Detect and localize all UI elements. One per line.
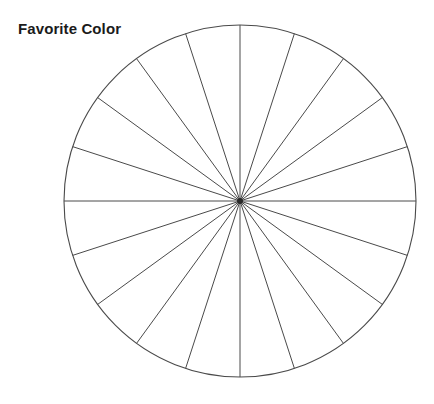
pie-chart-svg [0, 0, 434, 404]
favorite-color-pie-chart: Favorite Color [0, 0, 434, 404]
pie-center-dot [237, 198, 243, 204]
